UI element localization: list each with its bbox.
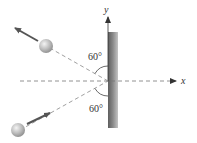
upper-angle-arc — [95, 66, 108, 74]
collision-diagram: y x 60° 60° — [0, 0, 197, 143]
incoming-velocity-arrow — [27, 113, 50, 124]
lower-angle-label: 60° — [89, 103, 103, 114]
outgoing-velocity-arrow — [15, 28, 38, 41]
wall — [108, 32, 118, 128]
ball-after-collision — [39, 39, 53, 53]
upper-angle-label: 60° — [88, 51, 102, 62]
x-axis-label: x — [180, 75, 186, 86]
ball-before-collision — [11, 123, 25, 137]
lower-angle-arc — [95, 89, 108, 97]
y-axis-label: y — [103, 4, 109, 15]
